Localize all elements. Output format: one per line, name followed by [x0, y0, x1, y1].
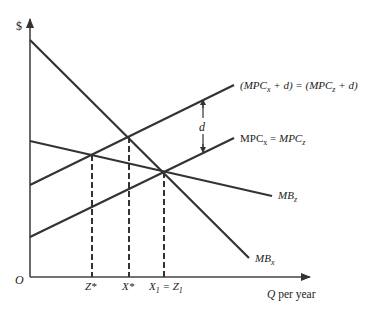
z-star-label: Z* — [85, 280, 97, 292]
d-gap-label: d — [199, 120, 206, 134]
y-axis-label: $ — [16, 19, 22, 33]
x1-z1-label: X1 = Z1 — [148, 280, 183, 295]
mpc-upper-label: (MPCx + d) = (MPCz + d) — [240, 79, 358, 94]
mpc-lower-curve — [30, 138, 234, 237]
mb-z-label: MBz — [277, 189, 298, 204]
mb-z-curve — [30, 141, 272, 196]
x-axis-label: Q per year — [267, 288, 316, 301]
mb-x-label: MBx — [254, 252, 275, 267]
diagram-canvas: d $ O Q per year (MPCx + d) = (MPCz + d)… — [0, 0, 378, 310]
mpc-lower-label: MPCx = MPCz — [240, 132, 306, 147]
x-star-label: X* — [121, 280, 135, 292]
origin-label: O — [15, 273, 24, 287]
